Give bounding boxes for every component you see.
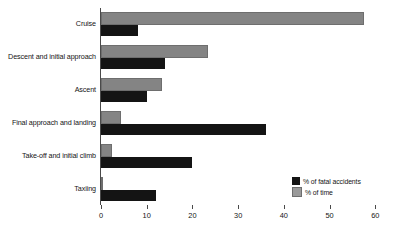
axis-tick-label-50: 50 xyxy=(325,211,333,220)
bar-time-descent-and-initial-approach xyxy=(101,45,208,58)
legend-swatch-icon-time xyxy=(292,187,302,197)
axis-tick-label-60: 60 xyxy=(371,211,379,220)
legend-label-fatal-accidents: % of fatal accidents xyxy=(303,178,361,185)
bar-fatal-accidents-ascent xyxy=(101,91,147,102)
bar-chart: Cruise Descent and initial approach Asce… xyxy=(0,0,394,241)
legend-item-fatal-accidents: % of fatal accidents xyxy=(292,176,392,186)
bar-time-cruise xyxy=(101,12,364,25)
category-label-taxiing: Taxiing xyxy=(0,185,96,193)
category-label-cruise: Cruise xyxy=(0,20,96,28)
bar-fatal-accidents-take-off-and-initial-climb xyxy=(101,157,192,168)
category-axis: Cruise Descent and initial approach Asce… xyxy=(0,8,96,205)
axis-tick-60 xyxy=(375,205,376,209)
axis-tick-40 xyxy=(284,205,285,209)
legend-swatch-icon-fatal-accidents xyxy=(292,177,300,185)
axis-tick-label-10: 10 xyxy=(143,211,151,220)
legend-label-time: % of time xyxy=(305,189,333,196)
legend: % of fatal accidents % of time xyxy=(292,176,392,198)
axis-tick-20 xyxy=(192,205,193,209)
bar-time-taxiing xyxy=(101,177,103,190)
category-label-descent-and-initial-approach: Descent and initial approach xyxy=(0,53,96,61)
axis-tick-label-20: 20 xyxy=(188,211,196,220)
axis-tick-10 xyxy=(147,205,148,209)
axis-tick-label-0: 0 xyxy=(99,211,103,220)
axis-tick-50 xyxy=(330,205,331,209)
bar-fatal-accidents-cruise xyxy=(101,25,138,36)
category-label-take-off-and-initial-climb: Take-off and initial climb xyxy=(0,152,96,160)
category-label-ascent: Ascent xyxy=(0,86,96,94)
bar-fatal-accidents-descent-and-initial-approach xyxy=(101,58,165,69)
axis-tick-label-30: 30 xyxy=(234,211,242,220)
bar-fatal-accidents-final-approach-and-landing xyxy=(101,124,266,135)
bar-fatal-accidents-taxiing xyxy=(101,190,156,201)
category-label-final-approach-and-landing: Final approach and landing xyxy=(0,119,96,127)
value-axis-line xyxy=(100,8,101,205)
value-axis: 0102030405060 xyxy=(101,205,389,235)
bar-time-ascent xyxy=(101,78,162,91)
axis-tick-0 xyxy=(101,205,102,209)
bar-time-final-approach-and-landing xyxy=(101,111,121,124)
bar-time-take-off-and-initial-climb xyxy=(101,144,112,157)
axis-tick-30 xyxy=(238,205,239,209)
axis-tick-label-40: 40 xyxy=(280,211,288,220)
legend-item-time: % of time xyxy=(292,187,392,197)
